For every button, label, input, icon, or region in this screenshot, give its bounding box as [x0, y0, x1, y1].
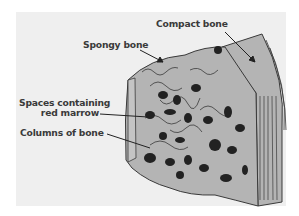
label-compact-bone: Compact bone — [156, 19, 228, 29]
label-columns-of-bone: Columns of bone — [20, 128, 104, 138]
label-marrow-line2: red marrow — [19, 108, 99, 118]
label-spongy-bone: Spongy bone — [83, 40, 148, 50]
spongy-bone-shape — [125, 46, 258, 206]
